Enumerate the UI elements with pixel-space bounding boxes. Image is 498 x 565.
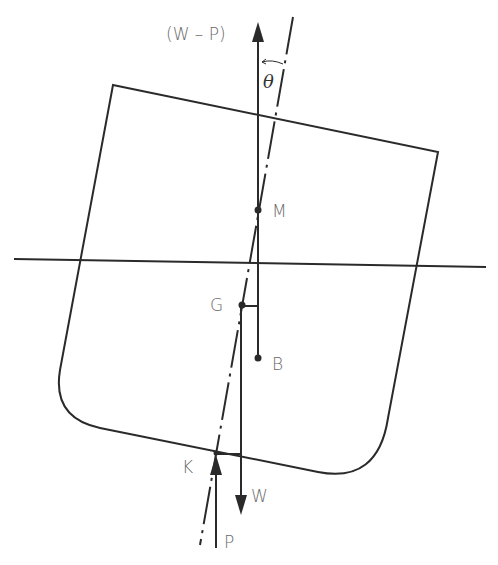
point-k [214,451,219,456]
upward-force-arrowhead [252,22,264,42]
point-b [255,355,262,362]
label-w: W [251,486,268,506]
weight-arrowhead [235,495,247,515]
label-p: P [224,532,234,552]
hull-outline [59,85,438,474]
label-theta: θ [263,71,274,92]
label-b: B [272,354,283,374]
point-m [255,207,262,214]
stability-diagram: (W – P) θ M G B K W P [0,0,498,565]
label-m: M [272,201,287,221]
point-g [239,302,246,309]
label-k: K [182,457,193,477]
label-upward-force: (W – P) [166,24,226,44]
label-g: G [210,295,223,315]
upthrust-arrowhead [210,455,222,475]
